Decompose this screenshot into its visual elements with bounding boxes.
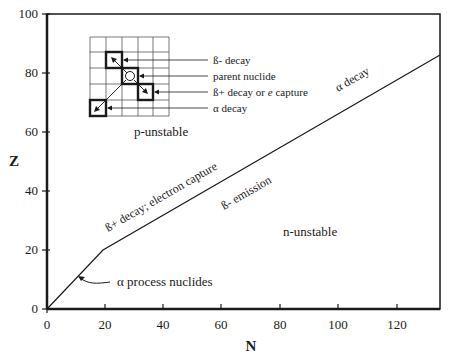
svg-text:80: 80 — [25, 65, 38, 80]
svg-text:60: 60 — [215, 317, 228, 332]
svg-text:80: 80 — [274, 317, 287, 332]
beta-plus-annotation: ß+ decay; electron capture — [103, 159, 220, 235]
svg-text:0: 0 — [32, 301, 39, 316]
y-tick-labels: 0 20 40 60 80 100 — [19, 6, 39, 316]
svg-text:20: 20 — [99, 317, 112, 332]
svg-text:100: 100 — [328, 317, 348, 332]
alpha-process-arrow — [80, 278, 110, 283]
x-tick-labels: 0 20 40 60 80 100 120 — [44, 317, 407, 332]
inset-legend: ß- decay parent nuclide ß+ decay or e ca… — [213, 54, 308, 114]
svg-text:40: 40 — [25, 183, 38, 198]
stability-diagram: 0 20 40 60 80 100 0 20 40 60 80 100 120 … — [0, 0, 449, 358]
svg-text:60: 60 — [25, 124, 38, 139]
svg-text:100: 100 — [19, 6, 39, 21]
n-unstable-label: n-unstable — [283, 224, 337, 239]
svg-text:120: 120 — [387, 317, 407, 332]
svg-text:20: 20 — [25, 242, 38, 257]
x-axis-label: N — [246, 338, 257, 354]
alpha-process-label: α process nuclides — [117, 274, 213, 289]
p-unstable-label: p-unstable — [134, 124, 188, 139]
legend-alpha: α decay — [213, 102, 248, 114]
decay-arrows — [96, 59, 146, 110]
alpha-decay-annotation: α decay — [333, 64, 372, 95]
svg-text:0: 0 — [44, 317, 51, 332]
svg-text:40: 40 — [157, 317, 170, 332]
legend-parent: parent nuclide — [213, 70, 276, 82]
legend-beta-plus: ß+ decay or e capture — [213, 86, 308, 98]
legend-beta-minus: ß- decay — [213, 54, 251, 66]
y-axis-label: Z — [9, 153, 19, 169]
